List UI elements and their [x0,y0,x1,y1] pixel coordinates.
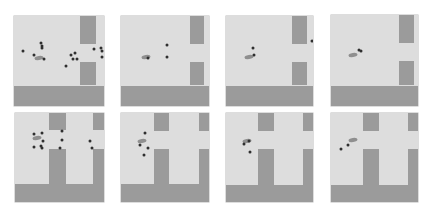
agent-marker [348,137,357,142]
particle-dot [311,40,313,43]
wall-block [93,149,104,186]
particle-dot [88,140,91,143]
particle-dot [40,46,43,49]
particle-dot [69,53,72,56]
particle-dot [40,131,43,134]
wall-block [363,149,379,185]
wall-block [199,113,209,131]
wall-block [331,185,418,202]
particle-dot [93,48,96,51]
particle-dot [165,55,168,58]
particle-dot [142,153,145,156]
particle-dot [165,43,168,46]
agent-marker [33,135,42,140]
particle-dot [101,55,104,58]
wall-block [258,113,274,131]
particle-dot [251,46,254,49]
particle-dot [101,50,104,53]
maze-panel-r1c1 [14,16,104,106]
agent-marker [348,52,357,57]
maze-panel-r2c3 [226,113,313,202]
particle-dot [59,146,62,149]
wall-block [154,113,170,131]
wall-block [331,86,418,106]
particle-dot [42,139,45,142]
wall-block [190,16,204,44]
particle-dot [40,146,43,149]
wall-block [303,113,313,131]
wall-block [303,149,313,185]
particle-dot [359,50,362,53]
maze-panel-r1c3 [226,16,313,106]
wall-block [399,61,414,85]
wall-block [226,86,313,106]
particle-dot [143,132,146,135]
wall-block [199,149,209,185]
particle-dot [249,151,252,154]
wall-block [49,113,66,130]
particle-dot [65,64,68,67]
particle-dot [32,133,35,136]
maze-panel-r1c2 [121,16,209,106]
particle-dot [147,57,150,60]
particle-dot [147,146,150,149]
particle-dot [139,144,142,147]
wall-block [154,149,170,185]
wall-block [292,16,307,44]
particle-dot [61,138,64,141]
wall-block [190,62,204,85]
particle-dot [22,50,25,53]
particle-dot [252,53,255,56]
wall-block [408,113,418,131]
particle-dot [74,51,77,54]
wall-block [363,113,379,131]
wall-block [399,15,414,43]
maze-panel-r2c2 [121,113,209,202]
particle-dot [76,58,79,61]
wall-block [226,185,313,202]
wall-block [292,62,307,85]
wall-block [408,149,418,185]
wall-block [80,62,96,85]
wall-block [121,86,209,106]
maze-panel-r2c4 [331,113,418,202]
wall-block [93,113,104,130]
maze-panel-r2c1 [15,113,104,202]
maze-panel-r1c4 [331,15,418,106]
particle-dot [72,58,75,61]
wall-block [14,86,104,106]
particle-dot [61,129,64,132]
particle-dot [42,58,45,61]
particle-dot [91,146,94,149]
particle-dot [100,46,103,49]
particle-dot [248,139,251,142]
particle-dot [347,144,350,147]
particle-dot [243,143,246,146]
wall-block [258,149,274,185]
particle-dot [32,53,35,56]
wall-block [121,184,209,202]
particle-dot [340,148,343,151]
particle-dot [32,145,35,148]
wall-block [49,149,66,186]
wall-block [15,184,104,202]
wall-block [80,16,96,44]
